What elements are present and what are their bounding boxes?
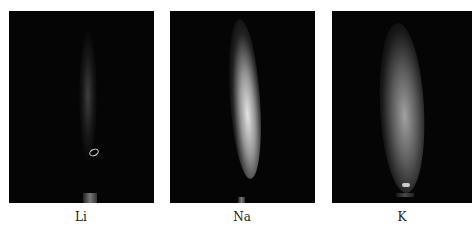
label-na: Na [212,210,272,224]
k-flame [376,22,429,194]
flame-photo-li [9,11,154,203]
burner-tube [83,193,97,203]
na-flame [224,18,265,180]
burner-tube [238,197,245,203]
li-flame [79,31,97,161]
burner-tube [396,193,414,197]
flame-photo-na [170,11,315,203]
k-wire-loop [402,183,410,187]
label-k: K [372,210,432,224]
flame-photo-k [332,11,472,203]
label-li: Li [51,210,111,224]
